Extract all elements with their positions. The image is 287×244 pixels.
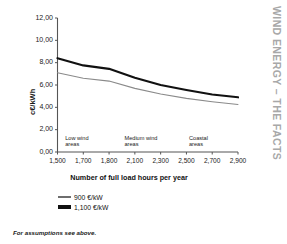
running-head-text: WIND ENERGY – THE FACTS bbox=[271, 6, 283, 160]
x-tick-label: 1,500 bbox=[45, 157, 71, 164]
y-tick-label: 0,00 bbox=[14, 148, 53, 155]
legend-item: 1,100 €/kW bbox=[58, 202, 108, 212]
y-tick-label: 4,00 bbox=[14, 103, 53, 110]
chart-line-series bbox=[58, 73, 239, 105]
chart-legend: 900 €/kW1,100 €/kW bbox=[58, 192, 108, 212]
x-tick-label: 2,500 bbox=[173, 157, 199, 164]
region-label: Low wind areas bbox=[65, 135, 88, 148]
x-tick-label: 2,700 bbox=[199, 157, 225, 164]
legend-item: 900 €/kW bbox=[58, 192, 108, 202]
region-label: Medium wind areas bbox=[125, 135, 158, 148]
y-tick-label: 6,00 bbox=[14, 81, 53, 88]
figure-footnote: For assumptions see above. bbox=[13, 229, 96, 236]
chart-series-group bbox=[58, 58, 239, 104]
y-tick-label: 2,00 bbox=[14, 125, 53, 132]
y-tick-label: 8,00 bbox=[14, 58, 53, 65]
legend-swatch-icon bbox=[58, 196, 71, 198]
y-tick-label: 12,00 bbox=[14, 14, 53, 21]
y-tick-label: 10,00 bbox=[14, 36, 53, 43]
x-tick-label: 2,100 bbox=[122, 157, 148, 164]
legend-label: 1,100 €/kW bbox=[74, 204, 108, 211]
region-label: Coastal areas bbox=[189, 135, 208, 148]
chart-figure: c€/kWh 12,0010,008,006,004,002,000,00 1,… bbox=[0, 0, 258, 244]
legend-label: 900 €/kW bbox=[74, 194, 103, 201]
x-tick-label: 1,800 bbox=[96, 157, 122, 164]
x-tick-label: 1,700 bbox=[70, 157, 96, 164]
x-tick-label: 2,900 bbox=[225, 157, 251, 164]
x-axis-title: Number of full load hours per year bbox=[0, 173, 258, 182]
running-head: WIND ENERGY – THE FACTS bbox=[269, 6, 285, 136]
figure-page: c€/kWh 12,0010,008,006,004,002,000,00 1,… bbox=[0, 0, 287, 244]
x-tick-label: 2,300 bbox=[148, 157, 174, 164]
legend-swatch-icon bbox=[58, 205, 71, 209]
y-axis-title-text: c€/kWh bbox=[28, 89, 37, 115]
